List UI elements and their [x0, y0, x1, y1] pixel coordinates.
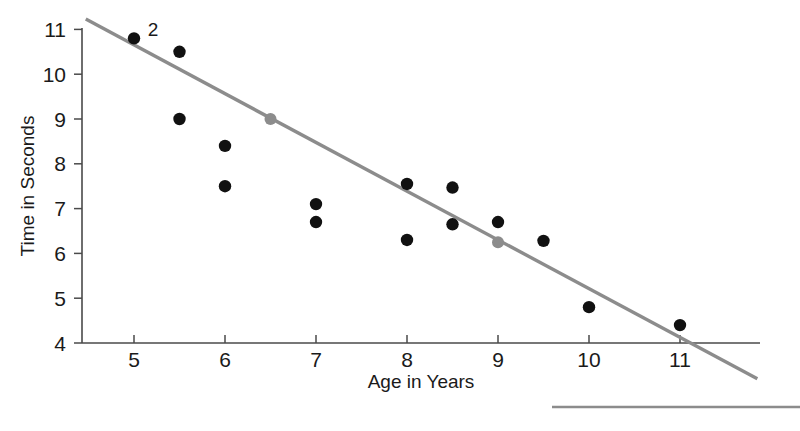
- x-axis-title: Age in Years: [368, 371, 475, 392]
- data-point: [583, 301, 595, 313]
- y-tick-label: 8: [54, 152, 66, 175]
- data-point: [446, 218, 458, 230]
- data-point: [492, 216, 504, 228]
- y-tick-label: 4: [54, 332, 66, 355]
- data-point: [310, 216, 322, 228]
- x-axis-ticks: 567891011: [128, 335, 691, 371]
- data-point: [537, 235, 549, 247]
- y-tick-label: 9: [54, 108, 66, 131]
- x-tick-label: 9: [492, 348, 504, 371]
- y-tick-label: 11: [44, 18, 66, 41]
- x-tick-label: 10: [577, 348, 600, 371]
- data-point: [401, 234, 413, 246]
- data-point: [173, 46, 185, 58]
- x-tick-label: 6: [219, 348, 231, 371]
- y-tick-label: 10: [43, 63, 66, 86]
- line-marker: [492, 236, 504, 248]
- y-tick-label: 7: [54, 197, 66, 220]
- data-point: [128, 32, 140, 44]
- y-axis-title: Time in Seconds: [17, 116, 38, 257]
- x-tick-label: 8: [401, 348, 413, 371]
- data-point: [219, 180, 231, 192]
- line-marker: [265, 113, 277, 125]
- x-tick-label: 7: [310, 348, 322, 371]
- data-point: [219, 140, 231, 152]
- data-point: [173, 113, 185, 125]
- data-point: [401, 178, 413, 190]
- y-tick-label: 5: [54, 287, 66, 310]
- x-tick-label: 11: [669, 348, 691, 371]
- y-axis-ticks: 4567891011: [43, 18, 82, 355]
- data-point: [310, 198, 322, 210]
- y-tick-label: 6: [54, 242, 66, 265]
- annotations-layer: 2: [148, 19, 159, 40]
- data-point: [674, 319, 686, 331]
- data-points-layer: [128, 32, 686, 331]
- chart-canvas: 4567891011 567891011 2 Age in Years Time…: [0, 0, 800, 431]
- x-tick-label: 5: [128, 348, 140, 371]
- scatter-chart: 4567891011 567891011 2 Age in Years Time…: [0, 0, 800, 431]
- data-point: [446, 181, 458, 193]
- trend-line: [86, 19, 758, 379]
- point-annotation: 2: [148, 19, 159, 40]
